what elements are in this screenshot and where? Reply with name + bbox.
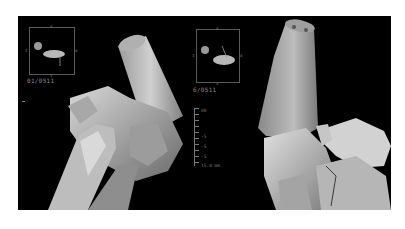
- right-ct-render-panel: d 1 d v 6/0511 00 -5 -5 -5 15.0 mm: [186, 16, 391, 210]
- left-ct-render-panel: d 1 d v 01/0511: [18, 16, 186, 210]
- ct-bone-render: [18, 16, 186, 210]
- ct-bone-render: [186, 16, 391, 210]
